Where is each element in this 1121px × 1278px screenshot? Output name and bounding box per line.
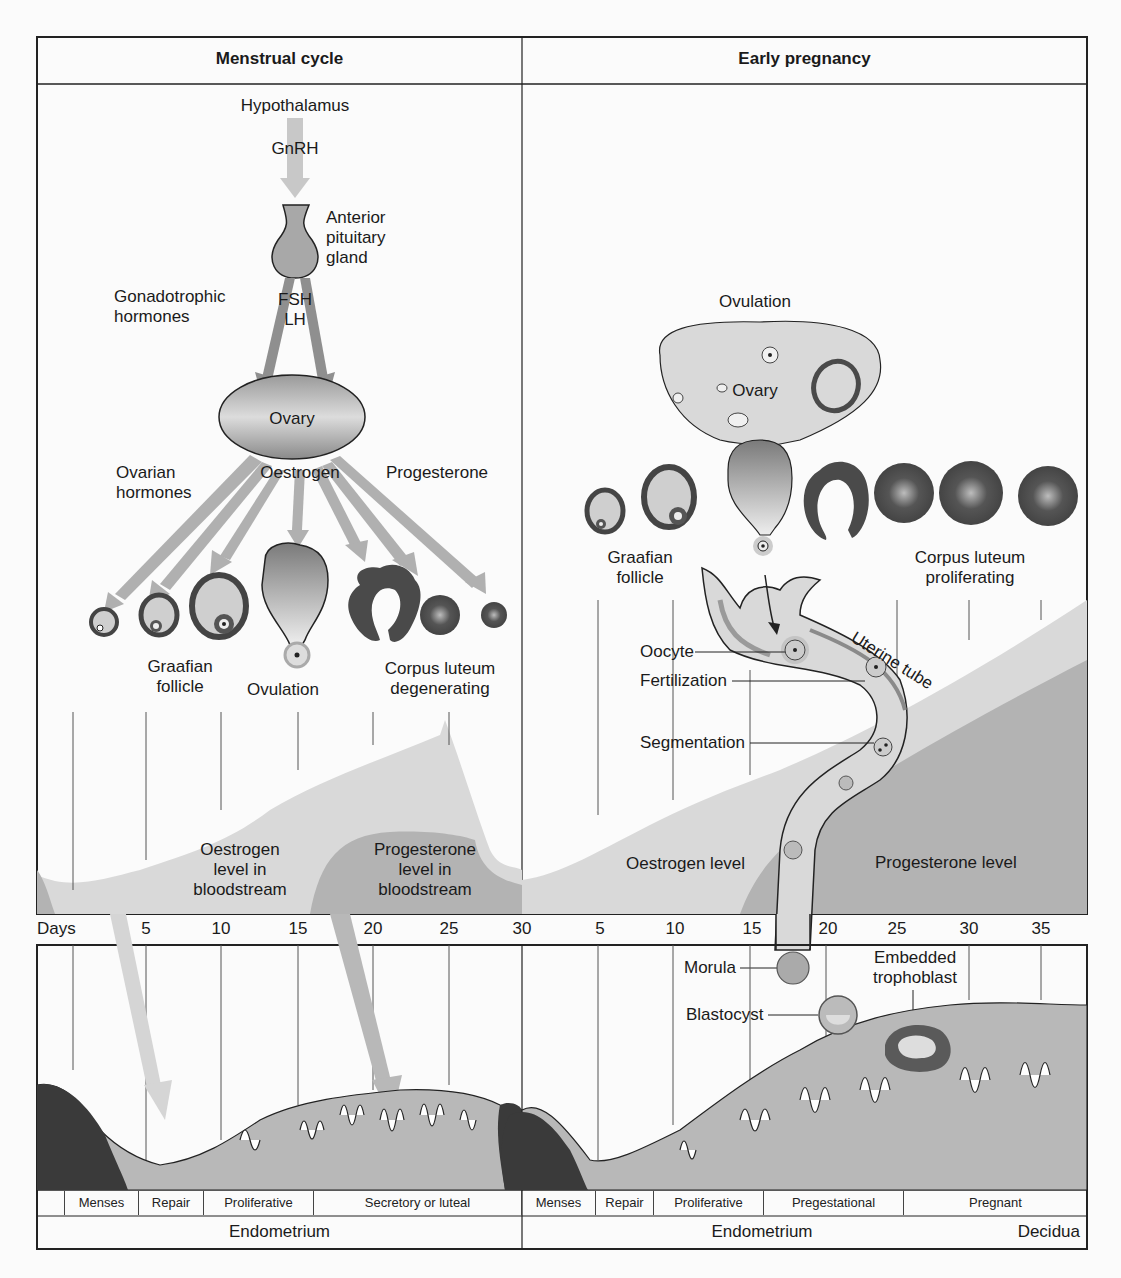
gonadotrophic-hormones-label: Gonadotrophic hormones — [114, 287, 226, 327]
days-axis-label: Days — [37, 919, 76, 939]
phase-right-proliferative: Proliferative — [654, 1191, 764, 1215]
tick-right-35: 35 — [1032, 919, 1051, 939]
early-pregnancy-title: Early pregnancy — [522, 49, 1087, 69]
tick-right-30: 30 — [960, 919, 979, 939]
left-ovulation-label: Ovulation — [233, 680, 333, 700]
oestrogen-label: Oestrogen — [250, 463, 350, 483]
fertilization-label: Fertilization — [640, 671, 727, 691]
hypothalamus-label: Hypothalamus — [215, 96, 375, 116]
tick-left-15: 15 — [289, 919, 308, 939]
tick-left-10: 10 — [212, 919, 231, 939]
embedded-trophoblast-label: Embedded trophoblast — [860, 948, 970, 988]
phase-left-proliferative: Proliferative — [204, 1191, 314, 1215]
tick-right-15: 15 — [743, 919, 762, 939]
ovarian-hormones-label: Ovarian hormones — [116, 463, 192, 503]
diagram-graphics — [0, 0, 1121, 1278]
menstrual-cycle-title: Menstrual cycle — [37, 49, 522, 69]
phase-left-menses: Menses — [65, 1191, 139, 1215]
lh-label: LH — [270, 310, 320, 330]
phase-right-pregnant: Pregnant — [904, 1191, 1087, 1215]
phase-left-repair: Repair — [139, 1191, 204, 1215]
left-endometrium-label: Endometrium — [37, 1219, 522, 1245]
fsh-label: FSH — [270, 290, 320, 310]
segmentation-label: Segmentation — [640, 733, 745, 753]
tick-left-25: 25 — [440, 919, 459, 939]
tick-right-20: 20 — [819, 919, 838, 939]
right-graafian-follicle-label: Graafian follicle — [590, 548, 690, 588]
right-oestrogen-level-label: Oestrogen level — [626, 854, 745, 874]
oestrogen-level-label: Oestrogen level in bloodstream — [185, 840, 295, 900]
tick-right-25: 25 — [888, 919, 907, 939]
tick-right-5: 5 — [595, 919, 604, 939]
tick-right-10: 10 — [666, 919, 685, 939]
tick-left-5: 5 — [141, 919, 150, 939]
corpus-luteum-proliferating-label: Corpus luteum proliferating — [905, 548, 1035, 588]
progesterone-level-label: Progesterone level in bloodstream — [365, 840, 485, 900]
anterior-pituitary-label: Anterior pituitary gland — [326, 208, 386, 268]
phase-right-pregestational: Pregestational — [764, 1191, 904, 1215]
phase-spacer — [37, 1191, 65, 1215]
right-progesterone-level-label: Progesterone level — [875, 853, 1017, 873]
phase-right-repair: Repair — [596, 1191, 654, 1215]
progesterone-label: Progesterone — [386, 463, 488, 483]
right-endometrium-label: Endometrium — [522, 1219, 1002, 1245]
tick-left-20: 20 — [364, 919, 383, 939]
phase-left-secretory: Secretory or luteal — [314, 1191, 522, 1215]
blastocyst-label: Blastocyst — [686, 1005, 763, 1025]
right-ovary-label: Ovary — [725, 381, 785, 401]
tick-left-30: 30 — [513, 919, 532, 939]
left-graafian-follicle-label: Graafian follicle — [130, 657, 230, 697]
corpus-luteum-degenerating-label: Corpus luteum degenerating — [370, 659, 510, 699]
morula-label: Morula — [684, 958, 736, 978]
gnrh-label: GnRH — [255, 139, 335, 159]
right-ovulation-label: Ovulation — [705, 292, 805, 312]
oocyte-label: Oocyte — [640, 642, 694, 662]
left-ovary-label: Ovary — [252, 409, 332, 429]
phase-right-menses: Menses — [522, 1191, 596, 1215]
decidua-label: Decidua — [990, 1219, 1080, 1245]
